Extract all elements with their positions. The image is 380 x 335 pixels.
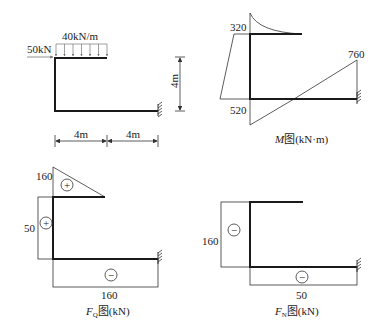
shear-value-column: 50 — [24, 222, 36, 234]
moment-column-region — [220, 34, 250, 99]
axial-value-column: 160 — [202, 235, 219, 247]
svg-text:+: + — [64, 179, 70, 191]
moment-bottom-pos-region — [294, 60, 357, 99]
moment-value-760: 760 — [348, 48, 365, 60]
axial-diagram: − − 160 50 FN图(kN) — [202, 202, 361, 319]
moment-caption: M图(kN·m) — [274, 133, 328, 146]
axial-sign-column: − — [228, 224, 240, 236]
point-load-label: 50kN — [27, 43, 52, 55]
moment-value-520: 520 — [230, 104, 247, 116]
shear-top-region — [53, 167, 105, 197]
shear-sign-top: + — [61, 179, 73, 191]
moment-value-320: 320 — [230, 21, 247, 33]
span-dim-label-right: 4m — [126, 128, 141, 140]
moment-top-curve — [250, 13, 302, 34]
shear-value-top: 160 — [36, 170, 53, 182]
shear-caption: FQ图(kN) — [85, 305, 130, 319]
axial-caption: FN图(kN) — [274, 305, 319, 319]
axial-fixed-support — [357, 258, 361, 272]
moment-bottom-neg-region — [250, 99, 294, 125]
shear-fixed-support — [158, 250, 162, 264]
moment-diagram: 320 520 760 M图(kN·m) — [220, 13, 365, 146]
loading-diagram: 40kN/m 50kN 4m — [27, 30, 185, 147]
distributed-load-arrows — [56, 44, 107, 56]
axial-value-bottom: 50 — [296, 289, 308, 301]
shear-value-bottom: 160 — [101, 289, 118, 301]
axial-sign-bottom: − — [296, 271, 308, 283]
structural-diagrams: 40kN/m 50kN 4m — [0, 0, 380, 335]
fixed-support — [158, 102, 162, 117]
shear-frame — [53, 197, 158, 259]
axial-frame — [250, 202, 357, 267]
distributed-load-label: 40kN/m — [62, 30, 99, 42]
moment-fixed-support — [357, 90, 361, 104]
shear-sign-column: + — [40, 217, 52, 229]
svg-text:−: − — [299, 271, 305, 283]
moment-frame — [250, 34, 357, 99]
span-dimension — [55, 135, 158, 147]
frame-structure — [55, 58, 158, 111]
svg-text:−: − — [108, 269, 114, 281]
svg-text:−: − — [231, 224, 237, 236]
svg-text:+: + — [43, 217, 49, 229]
shear-diagram: + + − 160 50 160 FQ图(kN) — [24, 167, 162, 319]
span-dim-label-left: 4m — [74, 128, 89, 140]
height-dim-label: 4m — [168, 74, 180, 89]
shear-sign-bottom: − — [105, 269, 117, 281]
